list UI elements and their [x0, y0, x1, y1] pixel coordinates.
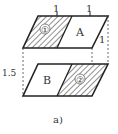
label-region-b: B	[43, 74, 51, 87]
diagram: 1 1 1 1.5 ① A B ② a)	[0, 0, 118, 134]
dim-top-left: 1	[53, 3, 59, 14]
label-region-1: ①	[41, 25, 49, 35]
top-slab	[23, 16, 108, 48]
dim-height: 1.5	[2, 68, 17, 78]
label-region-2: ②	[76, 75, 84, 85]
label-region-a: A	[75, 26, 85, 39]
figure-caption: a)	[53, 114, 63, 125]
bottom-slab	[23, 64, 108, 96]
dim-depth: 1	[99, 34, 105, 45]
dim-top-right: 1	[86, 3, 92, 14]
